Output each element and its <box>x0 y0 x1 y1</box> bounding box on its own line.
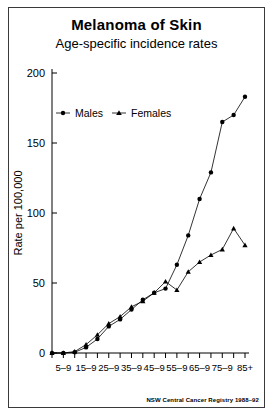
x-tick-label: 65–9 <box>189 362 210 373</box>
y-tick-label: 150 <box>27 137 45 149</box>
data-point-females <box>220 247 225 252</box>
y-tick-label: 50 <box>33 277 45 289</box>
y-tick-label: 200 <box>27 67 45 79</box>
y-tick-label: 0 <box>39 347 45 359</box>
data-point-females <box>231 226 236 231</box>
data-point-males <box>197 197 201 201</box>
data-point-females <box>106 321 111 326</box>
data-point-females <box>208 252 213 257</box>
x-tick-label: 55–9 <box>166 362 187 373</box>
legend-females-label: Females <box>131 107 171 119</box>
data-point-males <box>186 233 190 237</box>
x-tick-label: 85+ <box>237 362 254 373</box>
chart-page: Melanoma of Skin Age-specific incidence … <box>0 0 273 416</box>
x-tick-label: 5–9 <box>55 362 71 373</box>
data-point-females <box>163 279 168 284</box>
data-point-males <box>243 95 247 99</box>
data-point-females <box>197 259 202 264</box>
x-tick-label: 25–9 <box>98 362 119 373</box>
data-point-males <box>231 113 235 117</box>
data-point-females <box>242 243 247 248</box>
series-line-females <box>52 228 245 353</box>
legend-males-label: Males <box>75 107 103 119</box>
series-line-males <box>52 97 245 353</box>
x-tick-label: 15–9 <box>75 362 96 373</box>
data-point-females <box>174 287 179 292</box>
data-point-males <box>209 170 213 174</box>
x-tick-label: 35–9 <box>121 362 142 373</box>
data-point-males <box>220 120 224 124</box>
data-point-males <box>175 263 179 267</box>
legend-males-marker <box>61 111 65 115</box>
data-point-females <box>129 304 134 309</box>
line-chart: 050100150200Rate per 100,0005–915–925–93… <box>0 0 273 416</box>
y-tick-label: 100 <box>27 207 45 219</box>
x-tick-label: 75–9 <box>212 362 233 373</box>
source-credit: NSW Central Cancer Registry 1988–92 <box>146 397 259 403</box>
y-axis-label: Rate per 100,000 <box>12 170 24 255</box>
data-point-males <box>163 286 167 290</box>
x-tick-label: 45–9 <box>144 362 165 373</box>
data-point-males <box>95 337 99 341</box>
